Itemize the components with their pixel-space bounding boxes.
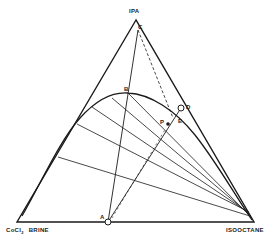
point-label-p: P: [160, 119, 164, 125]
point-label-b: B: [124, 86, 128, 92]
vertex-label-isooctane: ISOOCTANE: [226, 227, 264, 233]
point-label-d: D: [186, 104, 190, 110]
point-label-a: A: [100, 214, 104, 220]
point-p-marker: [166, 122, 170, 126]
brine-label-sub: 2: [21, 230, 24, 235]
point-a-marker: [105, 219, 111, 225]
point-d-marker: [178, 105, 184, 111]
point-label-c: C: [138, 24, 142, 30]
ternary-triangle: [17, 20, 254, 222]
vertex-label-ipa: IPA: [129, 8, 139, 14]
point-label-e: E: [178, 118, 182, 124]
vertex-label-brine: CoCl2 BRINE: [6, 227, 49, 235]
binodal-curve: [22, 93, 252, 220]
brine-label-suffix: BRINE: [29, 227, 49, 233]
ternary-diagram: [0, 0, 270, 240]
brine-label-main: CoCl: [6, 227, 21, 233]
